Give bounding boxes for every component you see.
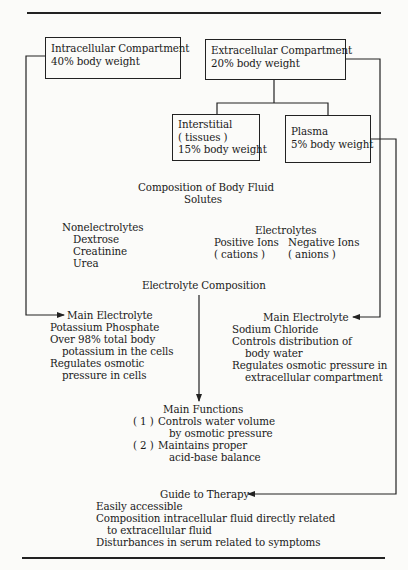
interstitial-value: 15% body weight xyxy=(178,143,254,156)
electrolytes-heading: Electrolytes xyxy=(255,224,316,237)
function-line: Maintains proper xyxy=(158,439,247,452)
function-line: acid-base balance xyxy=(169,451,261,464)
interstitial-sub: ( tissues ) xyxy=(178,131,254,144)
extracellular-electrolyte-line: Regulates osmotic pressure in xyxy=(232,359,387,372)
function-number: ( 2 ) xyxy=(133,439,154,452)
interstitial-title: Interstitial xyxy=(178,118,254,131)
function-line: by osmotic pressure xyxy=(169,427,273,440)
therapy-line: Composition intracellular fluid directly… xyxy=(96,512,335,525)
extracellular-electrolyte-line: Sodium Chloride xyxy=(232,323,318,336)
function-number: ( 1 ) xyxy=(133,415,154,428)
extracellular-electrolyte-line: body water xyxy=(245,347,303,360)
intracellular-electrolyte-line: potassium in the cells xyxy=(62,345,173,358)
nonelectrolyte-item: Dextrose xyxy=(73,233,119,246)
intracellular-compartment-box: Intracellular Compartment 40% body weigh… xyxy=(45,37,181,79)
intracellular-electrolyte-line: Over 98% total body xyxy=(50,333,155,346)
electrolyte-composition-title: Electrolyte Composition xyxy=(142,279,266,292)
main-functions-heading: Main Functions xyxy=(163,403,243,416)
plasma-box: Plasma 5% body weight xyxy=(285,115,371,163)
nonelectrolytes-heading: Nonelectrolytes xyxy=(62,221,143,234)
nonelectrolyte-item: Urea xyxy=(73,257,98,270)
negative-ions-label: Negative Ions xyxy=(288,236,359,249)
intracellular-title: Intracellular Compartment xyxy=(51,42,175,55)
plasma-title: Plasma xyxy=(291,125,365,138)
intracellular-electrolyte-line: Regulates osmotic xyxy=(50,357,144,370)
therapy-line: Easily accessible xyxy=(96,500,183,513)
interstitial-box: Interstitial ( tissues ) 15% body weight xyxy=(172,114,260,161)
intracellular-electrolyte-line: Potassium Phosphate xyxy=(50,321,159,334)
bottom-rule xyxy=(22,557,385,559)
composition-subtitle: Solutes xyxy=(184,193,222,206)
therapy-line: Disturbances in serum related to symptom… xyxy=(96,536,320,549)
therapy-line: to extracellular fluid xyxy=(107,524,212,537)
extracellular-title: Extracellular Compartment xyxy=(211,44,340,57)
plasma-value: 5% body weight xyxy=(291,138,365,151)
extracellular-compartment-box: Extracellular Compartment 20% body weigh… xyxy=(205,39,346,80)
function-line: Controls water volume xyxy=(158,415,275,428)
nonelectrolyte-item: Creatinine xyxy=(73,245,127,258)
extracellular-electrolyte-line: extracellular compartment xyxy=(245,371,382,384)
positive-ions-sub: ( cations ) xyxy=(214,248,265,261)
guide-to-therapy-heading: Guide to Therapy xyxy=(160,488,249,501)
extracellular-electrolyte-line: Controls distribution of xyxy=(232,335,352,348)
intracellular-main-electrolyte-heading: Main Electrolyte xyxy=(67,309,153,322)
composition-title: Composition of Body Fluid xyxy=(138,181,274,194)
extracellular-value: 20% body weight xyxy=(211,57,340,70)
extracellular-main-electrolyte-heading: Main Electrolyte xyxy=(263,311,349,324)
intracellular-electrolyte-line: pressure in cells xyxy=(62,369,146,382)
positive-ions-label: Positive Ions xyxy=(214,236,279,249)
intracellular-value: 40% body weight xyxy=(51,55,175,68)
negative-ions-sub: ( anions ) xyxy=(288,248,336,261)
